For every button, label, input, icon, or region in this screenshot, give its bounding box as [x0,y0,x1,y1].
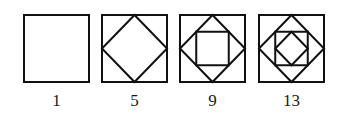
panel-3: 9 [180,15,245,110]
panel-label: 1 [52,91,61,110]
outer-square [259,15,324,82]
panel-2: 5 [102,15,167,110]
inscribed-diamond [259,15,324,82]
outer-square [102,15,167,82]
inner-square [196,32,229,66]
outer-square [180,15,245,82]
panel-label: 5 [130,91,139,110]
nested-squares-figure: 1 5 9 13 [0,0,341,124]
inscribed-diamond [180,15,245,82]
inscribed-diamond [102,15,167,82]
panel-4: 13 [259,15,324,110]
panel-label: 13 [283,91,300,110]
innermost-diamond [275,32,308,66]
panel-1: 1 [24,15,89,110]
panel-label: 9 [208,91,217,110]
outer-square [24,15,89,82]
inner-square [275,32,308,66]
